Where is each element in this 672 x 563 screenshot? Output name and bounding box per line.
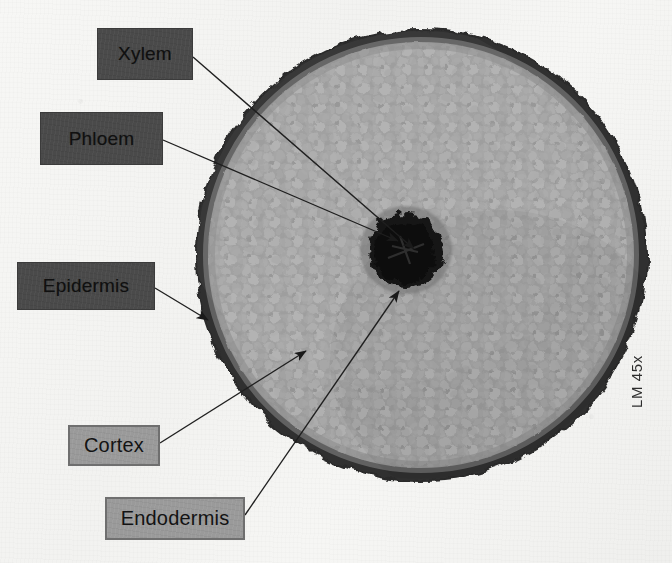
label-text-endodermis: Endodermis xyxy=(121,507,230,530)
label-text-xylem: Xylem xyxy=(118,43,172,65)
figure-canvas: Xylem Phloem Epidermis Cortex Endodermis… xyxy=(0,0,672,563)
label-box-cortex[interactable]: Cortex xyxy=(68,425,160,466)
magnification-note: LM 45x xyxy=(628,318,645,408)
label-box-phloem[interactable]: Phloem xyxy=(40,112,163,165)
label-box-xylem[interactable]: Xylem xyxy=(97,28,193,80)
label-box-endodermis[interactable]: Endodermis xyxy=(105,497,245,540)
label-text-cortex: Cortex xyxy=(84,434,144,457)
label-text-phloem: Phloem xyxy=(69,128,135,150)
label-box-epidermis[interactable]: Epidermis xyxy=(17,262,155,310)
vascular-cylinder-stele xyxy=(360,206,452,294)
label-text-epidermis: Epidermis xyxy=(43,275,129,297)
